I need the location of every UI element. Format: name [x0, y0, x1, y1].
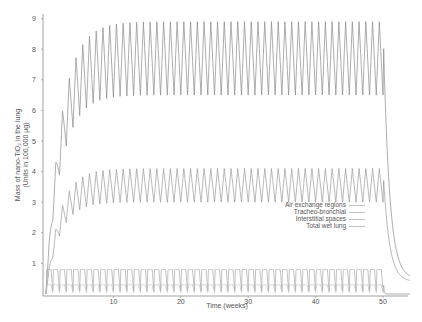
x-tick-label: 10	[110, 298, 118, 305]
legend-label: Total wet lung	[306, 222, 346, 230]
legend: Air exchange regionsTracheo-bronchialInt…	[285, 201, 365, 230]
x-tick-label: 40	[312, 298, 320, 305]
y-tick-label: 2	[32, 229, 36, 236]
svg-text:(Units in 100,000 µg): (Units in 100,000 µg)	[22, 122, 30, 187]
y-tick-label: 7	[32, 76, 36, 83]
legend-label: Tracheo-bronchial	[294, 208, 347, 215]
chart: 123456789 1020304050 Time (weeks) Mass o…	[0, 0, 422, 322]
y-tick-label: 9	[32, 15, 36, 22]
y-tick-label: 3	[32, 199, 36, 206]
y-tick-label: 5	[32, 138, 36, 145]
y-tick-label: 1	[32, 260, 36, 267]
x-ticks: 1020304050	[110, 296, 387, 305]
series-line	[46, 22, 410, 294]
y-ticks: 123456789	[32, 15, 43, 267]
x-tick-label: 20	[177, 298, 185, 305]
x-tick-label: 50	[379, 298, 387, 305]
x-axis-title: Time (weeks)	[206, 302, 248, 310]
y-tick-label: 8	[32, 46, 36, 53]
y-tick-label: 4	[32, 168, 36, 175]
y-axis-title: Mass of nano-TiO₂ in the lung (Units in …	[14, 109, 30, 201]
plot-series	[46, 22, 410, 294]
svg-text:Mass of nano-TiO₂ in the lung: Mass of nano-TiO₂ in the lung	[14, 109, 22, 201]
y-tick-label: 6	[32, 107, 36, 114]
